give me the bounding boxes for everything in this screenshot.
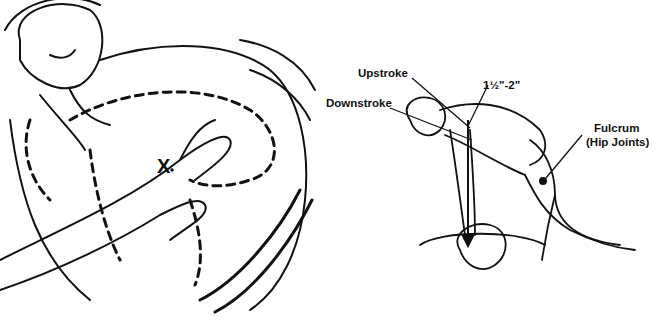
depth-label: 1½"-2" [483,79,520,92]
fulcrum-label: Fulcrum [594,122,639,135]
fulcrum-detail-label: (Hip Joints) [586,136,649,149]
upstroke-label: Upstroke [358,67,408,80]
downstroke-label: Downstroke [326,97,392,110]
chest-hand-placement-illustration: X [0,0,320,324]
compression-point-marker: X [157,155,170,178]
rescuer-kneeling-drawing [320,0,656,324]
rescuer-position-illustration: Upstroke 1½"-2" Downstroke Fulcrum (Hip … [320,0,656,324]
